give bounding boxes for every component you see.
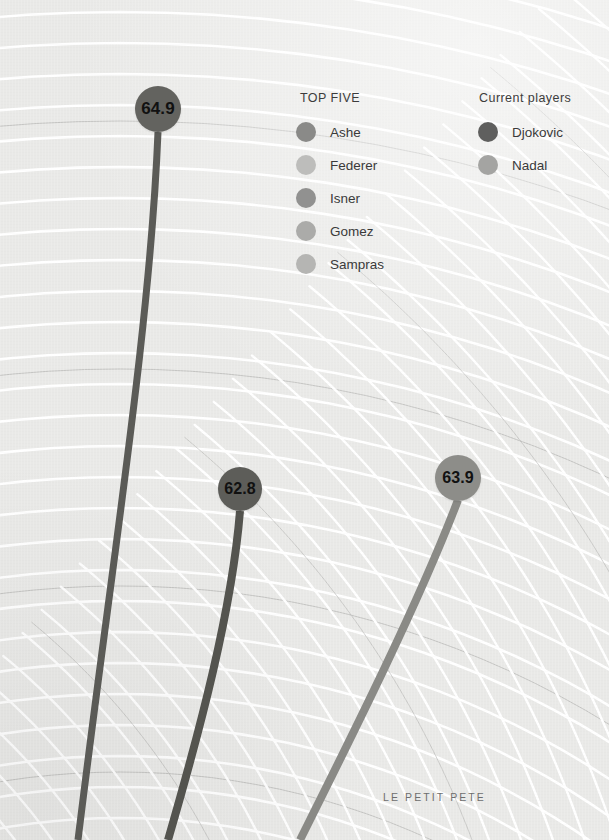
legend-swatch-icon <box>296 254 316 274</box>
data-point-value: 64.9 <box>141 99 175 119</box>
legend-swatch-icon <box>296 188 316 208</box>
legend-item-label: Isner <box>330 191 360 206</box>
legend-swatch-icon <box>296 155 316 175</box>
lollipop-stem <box>168 511 240 840</box>
legend-item-isner[interactable]: Isner <box>296 188 360 208</box>
legend-swatch-icon <box>296 221 316 241</box>
lollipop-stem <box>78 132 158 840</box>
legend-item-label: Sampras <box>330 257 384 272</box>
legend-swatch-icon <box>478 122 498 142</box>
legend-item-federer[interactable]: Federer <box>296 155 377 175</box>
legend-title-top_five: TOP FIVE <box>300 91 360 105</box>
legend-item-label: Gomez <box>330 224 374 239</box>
data-point-value: 62.8 <box>224 480 256 498</box>
legend-swatch-icon <box>296 122 316 142</box>
legend-item-djokovic[interactable]: Djokovic <box>478 122 563 142</box>
data-point-value: 63.9 <box>442 469 474 487</box>
data-point-marker[interactable]: 64.9 <box>135 86 181 132</box>
legend-swatch-icon <box>478 155 498 175</box>
legend-title-current_players: Current players <box>479 91 571 105</box>
chart-canvas: 64.962.863.9 TOP FIVEAsheFedererIsnerGom… <box>0 0 609 840</box>
legend-item-label: Nadal <box>512 158 547 173</box>
legend-item-ashe[interactable]: Ashe <box>296 122 361 142</box>
data-point-marker[interactable]: 62.8 <box>218 467 262 511</box>
legend-item-nadal[interactable]: Nadal <box>478 155 547 175</box>
legend-item-label: Federer <box>330 158 377 173</box>
lollipop-stem <box>300 500 458 840</box>
legend-item-label: Ashe <box>330 125 361 140</box>
legend-item-gomez[interactable]: Gomez <box>296 221 374 241</box>
credit-text: LE PETIT PETE <box>383 791 486 803</box>
legend-item-sampras[interactable]: Sampras <box>296 254 384 274</box>
data-point-marker[interactable]: 63.9 <box>435 455 481 501</box>
legend-item-label: Djokovic <box>512 125 563 140</box>
